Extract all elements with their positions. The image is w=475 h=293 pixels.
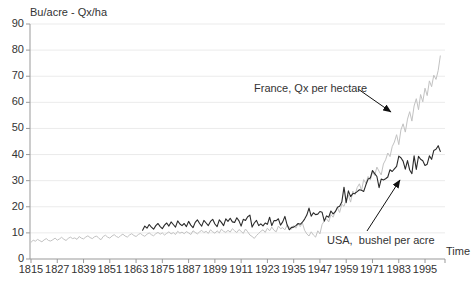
series-line-usa [143,146,441,231]
y-tick-label-10: 10 [0,226,24,239]
y-tick-label-30: 30 [0,174,24,187]
y-tick-label-60: 60 [0,95,24,108]
series-line-france [31,56,440,242]
y-tick-label-50: 50 [0,121,24,134]
annotation-usa-series: USA, bushel per acre [327,234,435,247]
wheat-yield-chart: Bu/acre - Qx/ha Time France, Qx per hect… [0,0,475,293]
annotation-france-series: France, Qx per hectare [254,82,367,95]
y-axis-unit-label: Bu/acre - Qx/ha [30,6,107,19]
y-tick-label-90: 90 [0,17,24,30]
plot-svg [0,0,475,293]
x-axis-time-label: Time [446,245,470,258]
y-tick-label-70: 70 [0,69,24,82]
y-tick-label-20: 20 [0,200,24,213]
x-tick-label-1995: 1995 [408,263,442,276]
y-tick-label-40: 40 [0,148,24,161]
y-tick-label-80: 80 [0,43,24,56]
annotation-arrow-usa [367,180,400,231]
